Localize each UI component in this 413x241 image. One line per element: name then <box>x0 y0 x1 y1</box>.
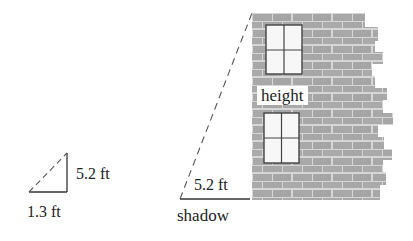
brick-building <box>252 13 393 200</box>
building-shadow-triangle <box>180 13 252 199</box>
pole-height-label: 5.2 ft <box>76 166 110 182</box>
pole-shadow-label: 1.3 ft <box>27 204 61 220</box>
upper-window <box>266 25 302 74</box>
sun-ray-dashed-line <box>180 13 252 199</box>
building-height-label: height <box>257 86 308 105</box>
lower-window <box>264 113 299 163</box>
sun-ray-dashed-line <box>29 153 67 192</box>
shadow-label: shadow <box>177 207 229 224</box>
diagram-canvas <box>0 0 413 241</box>
shadow-length-label: 5.2 ft <box>194 177 228 193</box>
small-triangle <box>29 153 67 192</box>
